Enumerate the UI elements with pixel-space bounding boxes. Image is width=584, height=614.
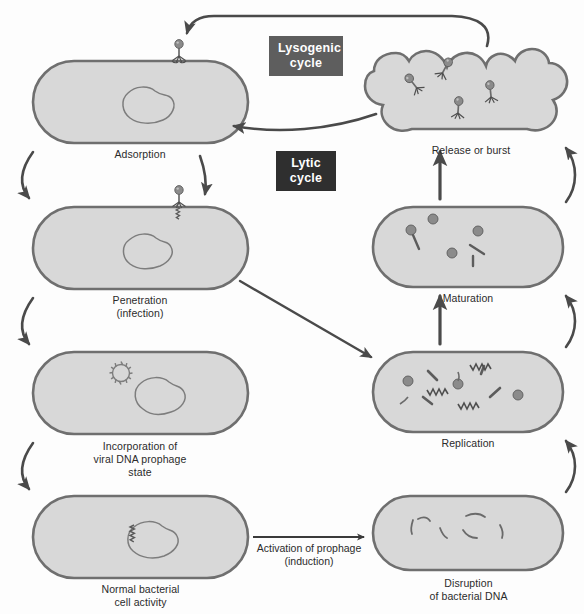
- label-maturation: Maturation: [398, 292, 538, 305]
- phage-adsorbing: [172, 40, 186, 63]
- label-disruption: Disruption of bacterial DNA: [396, 577, 541, 603]
- arrow-incorporation-to-normal: [22, 443, 33, 489]
- arrow-infection-down: [200, 156, 206, 194]
- cell-replication: [373, 352, 563, 432]
- arrow-penetration-to-replication: [240, 281, 371, 357]
- phage-life-cycle-diagram: Lysogenic cycle Lytic cycle Adsorption P…: [0, 0, 584, 614]
- lytic-cycle-label: Lytic cycle: [276, 151, 336, 191]
- label-incorporation: Incorporation of viral DNA prophage stat…: [60, 440, 220, 478]
- cell-disruption: [373, 496, 563, 570]
- arrow-adsorption-to-penetration: [22, 152, 33, 198]
- label-penetration: Penetration (infection): [70, 294, 210, 320]
- label-release: Release or burst: [396, 144, 546, 157]
- label-replication: Replication: [398, 437, 538, 450]
- cell-adsorption: [33, 61, 248, 143]
- lysogenic-cycle-label: Lysogenic cycle: [269, 36, 343, 76]
- arrow-maturation-to-release-right: [566, 148, 575, 202]
- arrow-disruption-to-replication: [566, 441, 575, 492]
- cell-release: [365, 49, 567, 131]
- cell-penetration: [33, 207, 248, 289]
- arrow-replication-to-maturation-right: [566, 296, 575, 347]
- label-induction: Activation of prophage (induction): [238, 542, 380, 568]
- cell-incorporation: [33, 352, 248, 434]
- label-normal-activity: Normal bacterial cell activity: [68, 583, 213, 609]
- arrow-penetration-to-incorporation: [22, 298, 33, 344]
- label-adsorption: Adsorption: [70, 148, 210, 161]
- arrow-release-to-adsorption-cell: [234, 114, 376, 130]
- cell-normal-activity: [33, 496, 248, 578]
- cell-maturation: [373, 207, 563, 287]
